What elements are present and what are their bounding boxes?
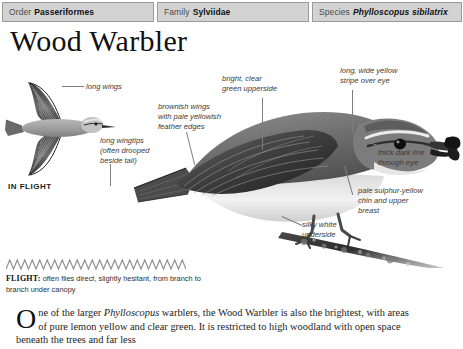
flight-path-zigzag-icon (6, 258, 186, 271)
annotation-green-upperside: bright, clear green upperside (222, 74, 277, 94)
family-label: Family (164, 7, 190, 17)
flight-info-block: FLIGHT: often flies direct, slightly hes… (6, 258, 201, 295)
body-text-part1: ne of the larger (38, 307, 104, 318)
leader-line-yellow-stripe (352, 90, 353, 134)
taxonomy-header: Order Passeriformes Family Sylviidae Spe… (0, 0, 463, 24)
annotation-long-wingtips: long wingtips (often drooped beside tail… (100, 136, 149, 166)
annotation-silky-underside: silky white underside (302, 220, 337, 240)
drop-cap: O (16, 307, 38, 330)
order-value: Passeriformes (34, 7, 94, 17)
annotation-dark-eye-line: thick dark line through eye (378, 148, 424, 168)
annotation-brownish-wings: brownish wings with pale yellowish feath… (158, 102, 221, 132)
body-scientific-name: Phylloscopus (104, 307, 159, 318)
taxonomy-cell-order: Order Passeriformes (2, 2, 154, 22)
species-value: Phylloscopus sibilatrix (353, 7, 448, 17)
annotation-long-wings: long wings (86, 82, 122, 92)
in-flight-label: IN FLIGHT (8, 182, 52, 191)
illustration-plate: IN FLIGHT (0, 58, 463, 268)
page-title: Wood Warbler (10, 26, 187, 56)
family-value: Sylviidae (193, 7, 231, 17)
taxonomy-cell-species: Species Phylloscopus sibilatrix (312, 2, 462, 22)
flight-keyword: FLIGHT: (6, 274, 41, 283)
species-description-paragraph: One of the larger Phylloscopus warblers,… (16, 306, 416, 347)
leader-line-green-upperside (262, 98, 263, 150)
annotation-sulphur-chin: pale sulphur-yellow chin and upper breas… (358, 186, 423, 216)
annotation-yellow-stripe: long, wide yellow stripe over eye (340, 66, 397, 86)
taxonomy-cell-family: Family Sylviidae (157, 2, 309, 22)
leader-line-wingtips (110, 164, 111, 186)
leader-line-long-wings (62, 86, 84, 87)
species-label: Species (319, 7, 350, 17)
order-label: Order (9, 7, 31, 17)
flight-description: FLIGHT: often flies direct, slightly hes… (6, 273, 201, 295)
